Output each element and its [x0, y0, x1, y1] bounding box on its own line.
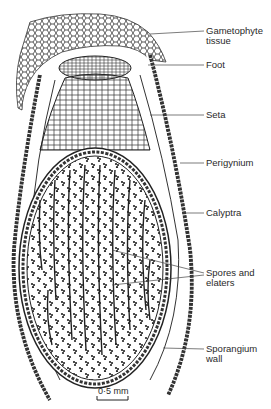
sporangium [19, 148, 171, 388]
label-foot: Foot [206, 60, 225, 70]
label-seta: Seta [206, 110, 226, 120]
label-perigynium: Perigynium [206, 158, 254, 168]
scale-bar [97, 396, 128, 400]
scale-bar-label: 0·5 mm [98, 386, 129, 396]
label-gametophyte-tissue: Gametophyte tissue [206, 26, 263, 46]
seta [40, 74, 150, 150]
label-calyptra: Calyptra [206, 208, 241, 218]
label-sporangium-wall: Sporangium wall [206, 344, 257, 364]
label-spores-and-elaters: Spores and elaters [206, 268, 255, 288]
